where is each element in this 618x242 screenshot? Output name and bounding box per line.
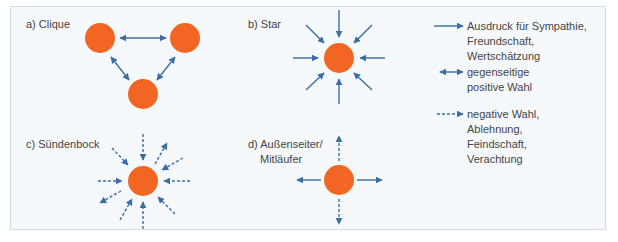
dashed-arrow-icon	[100, 191, 121, 203]
legend-icons	[434, 26, 463, 114]
clique-diagram	[85, 23, 200, 109]
panel-label-clique: a) Clique	[26, 18, 70, 31]
legend-line: Feindschaft,	[467, 137, 539, 152]
legend-line: Ausdruck für Sympathie,	[467, 19, 587, 34]
legend-line: positive Wahl	[467, 80, 532, 95]
legend-line: gegenseitige	[467, 65, 532, 80]
node-circle	[324, 165, 354, 195]
legend-line: Ablehnung,	[467, 122, 539, 137]
panel-label-line: Mitläufer	[248, 153, 323, 166]
star-diagram	[293, 10, 385, 104]
dashed-arrow-icon	[158, 197, 175, 214]
panel-label-star: b) Star	[248, 18, 281, 31]
panel-label-suendenbock: c) Sündenbock	[26, 138, 99, 151]
suendenbock-diagram	[98, 134, 190, 229]
legend-line: negative Wahl,	[467, 107, 539, 122]
solid-arrow-icon	[306, 73, 324, 90]
legend-line: Freundschaft,	[467, 34, 587, 49]
node-circle	[85, 23, 115, 53]
solid-arrow-icon	[354, 25, 372, 43]
dashed-arrow-icon	[162, 158, 183, 170]
node-circle	[170, 23, 200, 53]
legend-item-mutual-choice: gegenseitige positive Wahl	[467, 65, 532, 95]
dashed-arrow-icon	[155, 143, 167, 164]
panel-label-line: d) Außenseiter/	[248, 138, 323, 151]
legend-item-negative-choice: negative Wahl, Ablehnung, Feindschaft, V…	[467, 107, 539, 167]
panel-label-aussenseiter: d) Außenseiter/ Mitläufer	[248, 138, 323, 166]
legend-line: Wertschätzung	[467, 49, 587, 64]
dashed-arrow-icon	[120, 199, 132, 220]
dashed-arrow-icon	[112, 148, 128, 165]
node-circle	[128, 166, 158, 196]
bidirectional-arrow-icon	[111, 57, 129, 80]
bidirectional-arrow-icon	[157, 57, 175, 80]
solid-arrow-icon	[354, 73, 372, 90]
node-circle	[128, 79, 158, 109]
legend-item-positive-choice: Ausdruck für Sympathie, Freundschaft, We…	[467, 19, 587, 64]
node-circle	[324, 43, 354, 73]
solid-arrow-icon	[306, 25, 324, 43]
legend-line: Verachtung	[467, 152, 539, 167]
